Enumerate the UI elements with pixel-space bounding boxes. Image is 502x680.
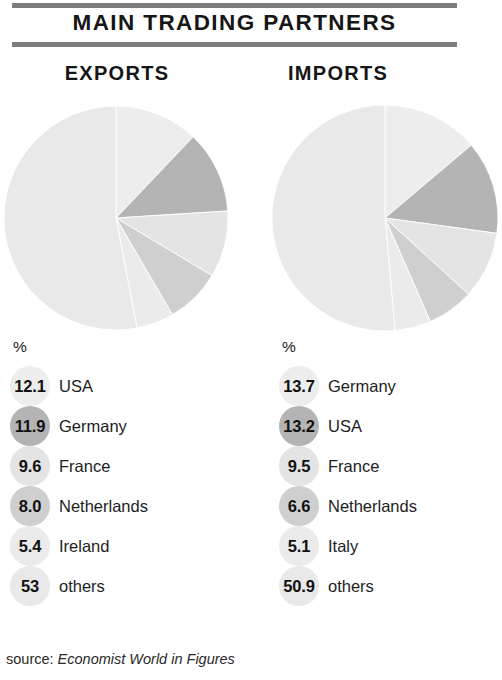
legend-row: 9.6France [10, 446, 244, 486]
legend-row: 11.9Germany [10, 406, 244, 446]
imports-swatch-netherlands: 6.6 [279, 486, 319, 526]
imports-pie-chart [269, 105, 502, 335]
legend-row: 12.1USA [10, 366, 244, 406]
legend-row: 53others [10, 566, 244, 606]
exports-pie-chart [0, 105, 234, 335]
header: MAIN TRADING PARTNERS [0, 0, 469, 52]
imports-swatch-others: 50.9 [279, 566, 319, 606]
source-prefix: source: [6, 651, 58, 667]
exports-legend-rows: 12.1USA11.9Germany9.6France8.0Netherland… [10, 366, 244, 606]
exports-panel-heading: EXPORTS [0, 62, 234, 85]
exports-swatch-ireland: 5.4 [10, 526, 50, 566]
legend-row: 6.6Netherlands [279, 486, 502, 526]
source-note: source: Economist World in Figures [6, 651, 235, 667]
exports-legend: % 12.1USA11.9Germany9.6France8.0Netherla… [10, 338, 244, 606]
exports-pie-svg [0, 105, 234, 335]
imports-unit-label: % [282, 338, 502, 356]
exports-swatch-others: 53 [10, 566, 50, 606]
exports-swatch-germany: 11.9 [10, 406, 50, 446]
legend-row: 13.2USA [279, 406, 502, 446]
legend-row: 13.7Germany [279, 366, 502, 406]
imports-swatch-germany: 13.7 [279, 366, 319, 406]
imports-panel-heading: IMPORTS [288, 62, 468, 85]
legend-row: 9.5France [279, 446, 502, 486]
legend-row: 5.1Italy [279, 526, 502, 566]
exports-label-france: France [59, 457, 110, 476]
legend-row: 50.9others [279, 566, 502, 606]
header-rule-bottom [12, 42, 457, 47]
exports-swatch-usa: 12.1 [10, 366, 50, 406]
exports-label-ireland: Ireland [59, 537, 109, 556]
exports-label-others: others [59, 577, 105, 596]
imports-label-netherlands: Netherlands [328, 497, 417, 516]
source-title: Economist World in Figures [58, 651, 235, 667]
exports-swatch-netherlands: 8.0 [10, 486, 50, 526]
pie-slice-others [272, 105, 395, 331]
imports-label-italy: Italy [328, 537, 358, 556]
imports-legend-rows: 13.7Germany13.2USA9.5France6.6Netherland… [279, 366, 502, 606]
exports-label-germany: Germany [59, 417, 127, 436]
exports-label-netherlands: Netherlands [59, 497, 148, 516]
exports-label-usa: USA [59, 377, 93, 396]
imports-swatch-italy: 5.1 [279, 526, 319, 566]
imports-label-others: others [328, 577, 374, 596]
page-title: MAIN TRADING PARTNERS [0, 10, 469, 36]
imports-legend: % 13.7Germany13.2USA9.5France6.6Netherla… [279, 338, 502, 606]
imports-label-germany: Germany [328, 377, 396, 396]
exports-swatch-france: 9.6 [10, 446, 50, 486]
imports-pie-svg [269, 105, 502, 335]
imports-label-france: France [328, 457, 379, 476]
exports-unit-label: % [13, 338, 244, 356]
imports-swatch-france: 9.5 [279, 446, 319, 486]
legend-row: 8.0Netherlands [10, 486, 244, 526]
imports-swatch-usa: 13.2 [279, 406, 319, 446]
header-rule-top [12, 3, 457, 8]
legend-row: 5.4Ireland [10, 526, 244, 566]
imports-label-usa: USA [328, 417, 362, 436]
